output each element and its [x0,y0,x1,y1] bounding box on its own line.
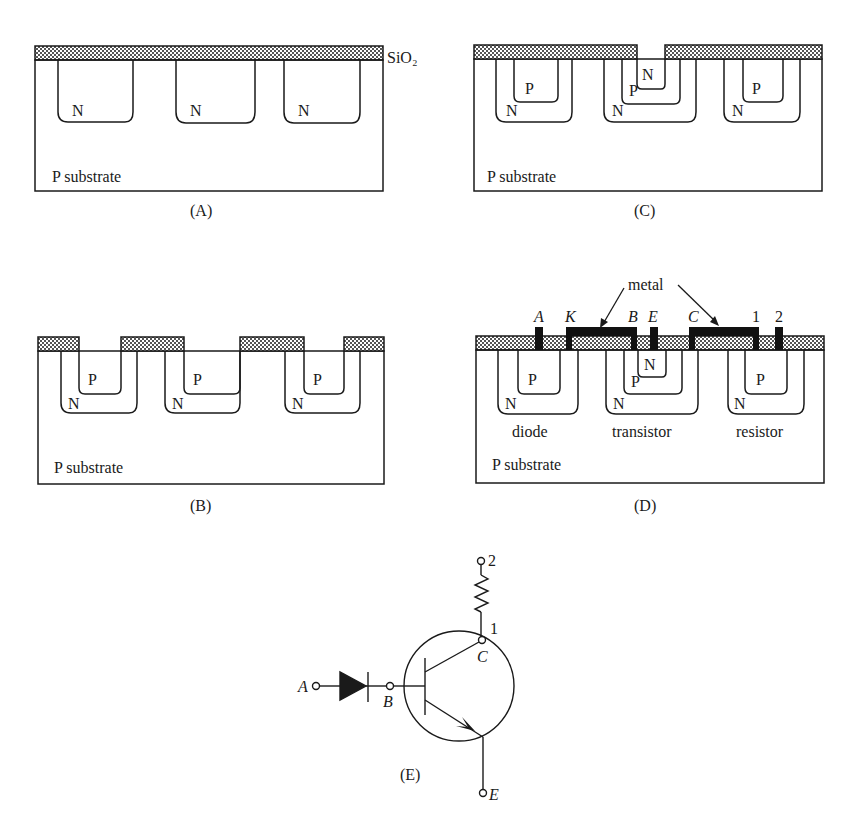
terminal-label-1: 1 [490,620,498,637]
panel-a: N N N SiO₂ P substrate (A) [35,46,417,220]
panel-caption: (C) [634,202,655,220]
panel-caption: (D) [634,497,656,515]
panel-caption: (A) [190,202,212,220]
n-label: N [505,395,517,412]
substrate-label: P substrate [487,168,556,185]
metal-contact-2 [775,327,783,350]
panel-d: N P P P N N N diode transistor resistor … [476,276,824,515]
emitter-arrow-icon [456,717,475,731]
n-label: N [72,102,84,119]
p-label: P [756,371,765,388]
n-label: N [292,395,304,412]
panel-e-labels: A B C E 2 1 (E) [297,552,499,803]
p-label: P [631,373,640,390]
n-emitter-label: N [644,356,656,373]
p-label: P [313,371,322,388]
n-label: N [612,102,624,119]
oxide-label: SiO₂ [387,49,417,66]
p-label: P [525,80,534,97]
p-region [304,351,344,394]
panel-caption: (E) [400,766,420,784]
resistor-terminal-2 [478,558,485,565]
p-label: P [88,371,97,388]
p-label: P [752,80,761,97]
resistor-icon [475,575,488,612]
device-label-resistor: resistor [736,423,784,440]
base-terminal [387,683,394,690]
n-region [58,60,133,122]
oxide-layer [35,46,383,60]
arrow-head-icon [600,318,608,328]
p-label: P [528,371,537,388]
substrate-label: P substrate [492,456,561,473]
n-label: N [734,395,746,412]
oxide-segment [665,45,822,59]
emitter-terminal [480,790,487,797]
p-region [79,351,121,394]
anode-terminal [313,683,320,690]
collector-terminal [479,637,486,644]
oxide-segment [38,337,79,351]
panel-caption: (B) [190,497,211,515]
panel-e-schematic [313,558,515,797]
contact-label-2: 2 [775,308,783,325]
contact-label-1: 1 [752,308,760,325]
device-label-transistor: transistor [612,423,672,440]
n-label: N [172,395,184,412]
contact-label-a: A [533,308,544,325]
oxide-segment [474,45,637,59]
ic-fabrication-diagram: N N N SiO₂ P substrate (A) P P P N N N P… [0,0,864,835]
terminal-label-a: A [297,678,308,695]
terminal-label-c: C [477,648,488,665]
oxide-segment [121,337,184,351]
n-region [284,60,360,123]
device-label-diode: diode [512,423,548,440]
p-region [514,59,558,102]
p-region [518,350,560,394]
panel-c: N P P P N N N P substrate (C) [474,45,822,220]
terminal-label-2: 2 [488,552,496,569]
metal-contact-a [535,327,543,350]
terminal-label-b: B [383,693,393,710]
metal-label: metal [628,276,664,293]
contact-label-k: K [564,308,577,325]
n-label: N [190,102,202,119]
contact-label-c: C [688,308,699,325]
panel-b: P P P N N N P substrate (B) [38,337,384,515]
p-region [745,350,787,394]
contact-label-e: E [647,308,658,325]
n-label: N [68,395,80,412]
p-label: P [193,371,202,388]
collector-lead [425,642,479,672]
emitter-lead [425,700,483,737]
substrate-label: P substrate [54,459,123,476]
n-label: N [506,102,518,119]
n-region [176,60,255,123]
substrate-label: P substrate [52,168,121,185]
oxide-segment [240,337,304,351]
p-label: P [629,82,638,99]
n-label: N [732,102,744,119]
n-label: N [298,102,310,119]
metal-contact-e [650,327,658,350]
n-label: N [613,395,625,412]
n-emitter-label: N [642,66,654,83]
contact-label-b: B [628,308,638,325]
terminal-label-e: E [488,786,499,803]
oxide-segment [344,337,384,351]
p-region [743,59,783,102]
diode-icon [340,672,366,700]
arrow-line [603,288,624,324]
